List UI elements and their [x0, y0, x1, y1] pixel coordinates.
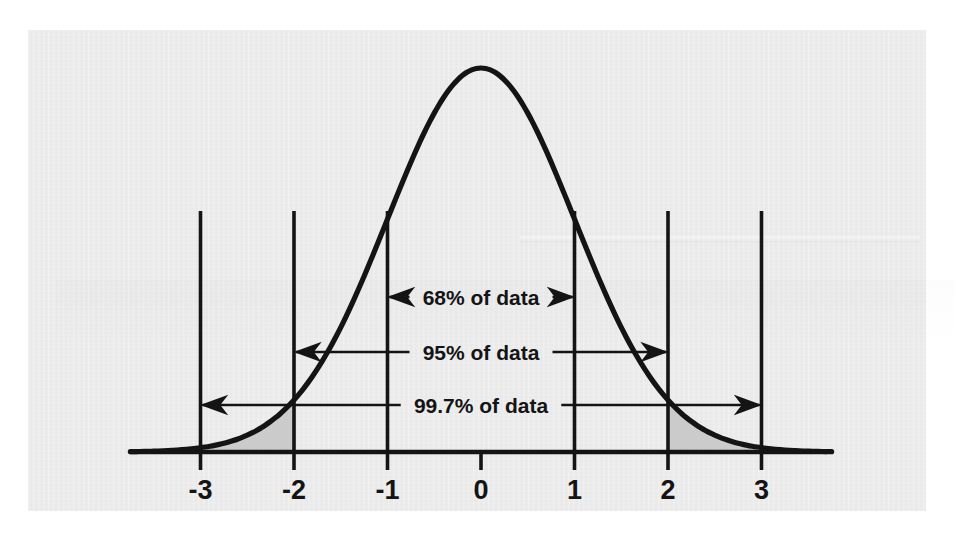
tick-label-2: 2	[660, 475, 675, 505]
band-68-label: 68% of data	[423, 286, 540, 309]
band-95: 95% of data	[296, 341, 666, 364]
figure-root: -3-2-10123 68% of data95% of data99.7% o…	[0, 0, 957, 539]
tick-label-0: 0	[473, 475, 488, 505]
band-68: 68% of data	[390, 286, 573, 309]
tick-label-neg2: -2	[282, 475, 306, 505]
tick-label-3: 3	[754, 475, 769, 505]
tick-label-neg1: -1	[375, 475, 399, 505]
normal-distribution-chart: -3-2-10123 68% of data95% of data99.7% o…	[0, 0, 957, 539]
tick-label-1: 1	[567, 475, 582, 505]
x-axis-tick-labels: -3-2-10123	[188, 475, 769, 505]
tick-label-neg3: -3	[188, 475, 212, 505]
x-axis-ticks	[201, 452, 762, 470]
annotation-bands: 68% of data95% of data99.7% of data	[203, 286, 760, 417]
band-997-label: 99.7% of data	[414, 394, 549, 417]
band-95-label: 95% of data	[423, 341, 540, 364]
